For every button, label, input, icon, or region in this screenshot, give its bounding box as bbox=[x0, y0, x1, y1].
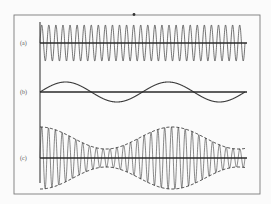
panel-b-modulating-signal: (b) bbox=[20, 82, 247, 102]
envelope-lower-dashed bbox=[40, 167, 245, 189]
panel-a-label: (a) bbox=[20, 40, 27, 47]
amplitude-modulation-diagram: (a) (b) (c) bbox=[0, 0, 271, 204]
panel-a-carrier-wave: (a) bbox=[20, 25, 247, 61]
panel-c-modulated-wave: (c) bbox=[20, 127, 247, 189]
marker-dot bbox=[133, 13, 136, 16]
panel-b-label: (b) bbox=[20, 89, 27, 96]
figure-frame bbox=[14, 15, 260, 194]
panel-c-label: (c) bbox=[20, 155, 27, 162]
envelope-upper-dashed bbox=[40, 127, 245, 149]
